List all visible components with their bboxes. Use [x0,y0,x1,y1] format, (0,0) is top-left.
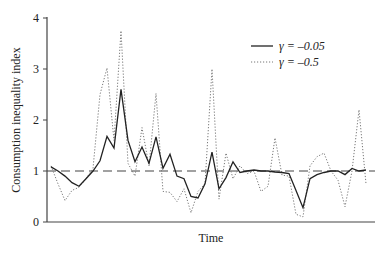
y-tick-label: 4 [33,11,39,25]
y-tick-label: 1 [33,164,39,178]
y-tick-label: 0 [33,215,39,229]
y-tick-label: 2 [33,113,39,127]
legend-label-0: γ = –0.05 [279,39,325,53]
series-gamma-0.05 [51,89,366,207]
x-axis-label: Time [199,231,224,245]
y-ticks: 01234 [33,11,47,229]
line-chart: 01234 Consumption inequality index Time … [0,0,380,253]
y-tick-label: 3 [33,62,39,76]
y-axis-label: Consumption inequality index [9,47,23,192]
legend-label-1: γ = –0.5 [279,55,319,69]
legend: γ = –0.05 γ = –0.5 [251,39,325,69]
